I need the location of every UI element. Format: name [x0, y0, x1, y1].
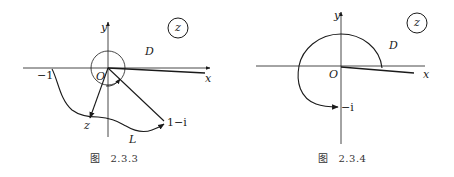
- minus-one-label: −1: [37, 70, 53, 81]
- x-axis-label: x: [205, 73, 211, 84]
- endpoint-label: −i: [341, 102, 354, 113]
- figure-caption: 图2.3.4: [318, 154, 366, 164]
- contour-L-label: L: [129, 134, 136, 145]
- caption-prefix: 图: [318, 153, 329, 164]
- figure-caption: 图2.3.3: [90, 154, 138, 164]
- y-axis-label: y: [101, 22, 107, 33]
- caption-number: 2.3.3: [111, 153, 139, 164]
- domain-label: D: [145, 46, 154, 57]
- branch-cut: [341, 67, 414, 73]
- figure-2-3-4-diagram: [256, 12, 427, 144]
- branch-cut: [108, 68, 205, 73]
- caption-prefix: 图: [90, 153, 101, 164]
- figures-canvas: [0, 0, 454, 177]
- domain-label: D: [389, 40, 398, 51]
- plane-label: z: [414, 17, 420, 28]
- origin-label: O: [329, 69, 338, 80]
- y-axis-label: y: [334, 10, 340, 21]
- point-z-label: z: [84, 120, 90, 131]
- origin-label: O: [96, 71, 105, 82]
- caption-number: 2.3.4: [339, 153, 367, 164]
- plane-label: z: [175, 22, 181, 33]
- segment-to-1-minus-i: [108, 68, 164, 121]
- endpoint-label: 1−i: [167, 117, 187, 128]
- arc-contour: [298, 34, 382, 107]
- x-axis-label: x: [423, 69, 429, 80]
